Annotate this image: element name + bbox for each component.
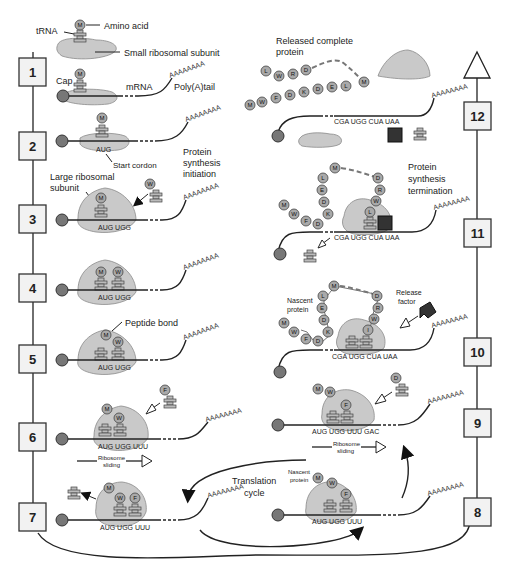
svg-text:protein: protein xyxy=(276,47,304,57)
svg-text:protein: protein xyxy=(290,477,308,483)
step-9: 9 xyxy=(464,409,491,437)
stage-9: M W F AAAAAAAA AUG UGG UUU GAC D Ribosom… xyxy=(272,373,465,454)
svg-text:E: E xyxy=(330,84,334,90)
svg-text:D: D xyxy=(322,199,327,205)
svg-text:F: F xyxy=(304,218,308,224)
svg-text:D: D xyxy=(316,86,321,92)
svg-text:M: M xyxy=(99,269,104,275)
svg-text:AUG UGG UUU GAC: AUG UGG UUU GAC xyxy=(312,428,379,435)
svg-text:Small ribosomal subunit: Small ribosomal subunit xyxy=(124,48,220,58)
step-2: 2 xyxy=(19,132,46,160)
svg-text:AAAAAAAA: AAAAAAAA xyxy=(182,251,220,270)
svg-text:W: W xyxy=(291,329,297,335)
stage-3: Large ribosomal subunit M AAAAAAAA AUG U… xyxy=(50,172,220,233)
step-1: 1 xyxy=(19,58,46,86)
stage-4: M W AAAAAAAA AUG UGG xyxy=(56,251,220,304)
svg-text:M: M xyxy=(78,71,83,77)
svg-text:AUG UGG UUU: AUG UGG UUU xyxy=(100,524,150,531)
step-12: 12 xyxy=(464,102,491,130)
svg-text:sliding: sliding xyxy=(337,448,354,454)
svg-text:AUG: AUG xyxy=(96,146,111,153)
svg-text:AUG UGG UUU: AUG UGG UUU xyxy=(312,518,362,525)
svg-text:10: 10 xyxy=(470,345,484,360)
svg-text:E: E xyxy=(320,305,324,311)
svg-text:M: M xyxy=(333,165,338,171)
svg-text:AAAAAAAA: AAAAAAAA xyxy=(184,103,222,122)
large-subunit-shape xyxy=(378,50,430,79)
svg-text:M: M xyxy=(104,332,109,338)
svg-text:8: 8 xyxy=(474,505,481,520)
small-subunit-shape xyxy=(299,133,342,148)
svg-text:Ribosome: Ribosome xyxy=(333,441,361,447)
svg-text:AAAAAAAA: AAAAAAAA xyxy=(426,480,464,497)
stage-10: Nascent protein Release factor M W F D K… xyxy=(274,281,469,378)
release-factor-icon xyxy=(388,128,402,142)
svg-text:M: M xyxy=(99,195,104,201)
svg-text:Protein: Protein xyxy=(183,147,212,157)
svg-text:F: F xyxy=(163,387,167,393)
stage-6: M W AAAAAAAA AUG UGG UUU F Ribosome slid… xyxy=(56,385,243,468)
svg-text:mRNA: mRNA xyxy=(126,82,153,92)
cap-icon xyxy=(57,90,69,102)
svg-text:W: W xyxy=(371,316,377,322)
svg-text:Poly(A)tail: Poly(A)tail xyxy=(174,82,215,92)
svg-text:W: W xyxy=(115,339,121,345)
svg-text:tRNA: tRNA xyxy=(36,26,58,36)
stage-12: Released complete protein L W R D M W F … xyxy=(245,36,469,147)
svg-text:Release: Release xyxy=(396,289,422,296)
svg-text:M: M xyxy=(100,115,105,121)
up-arrow-icon xyxy=(464,52,490,78)
svg-text:W: W xyxy=(147,181,153,187)
svg-text:M: M xyxy=(78,22,83,28)
svg-text:2: 2 xyxy=(29,139,36,154)
small-subunit-shape xyxy=(57,38,116,59)
svg-text:W: W xyxy=(276,73,282,79)
svg-text:CGA UGG CUA UAA: CGA UGG CUA UAA xyxy=(332,353,398,360)
svg-text:M: M xyxy=(107,485,112,491)
svg-text:F: F xyxy=(133,495,137,501)
svg-text:initiation: initiation xyxy=(183,169,216,179)
svg-text:E: E xyxy=(320,187,324,193)
stage-2: M AAAAAAAA AUG Start cordon Protein synt… xyxy=(56,103,222,179)
translation-diagram: 1 2 3 4 5 6 7 12 11 10 9 8 M Amino acid … xyxy=(0,0,516,578)
svg-text:F: F xyxy=(274,95,278,101)
cycle-arrow-right xyxy=(200,530,360,547)
svg-text:Nascent: Nascent xyxy=(287,297,313,304)
svg-text:1: 1 xyxy=(29,65,36,80)
svg-text:W: W xyxy=(329,480,335,486)
svg-text:AAAAAAAA: AAAAAAAA xyxy=(430,82,468,99)
svg-text:F: F xyxy=(304,336,308,342)
svg-text:synthesis: synthesis xyxy=(408,174,446,184)
svg-text:4: 4 xyxy=(29,281,37,296)
svg-text:K: K xyxy=(326,329,330,335)
svg-text:AUG UGG: AUG UGG xyxy=(98,224,131,231)
svg-text:5: 5 xyxy=(29,352,36,367)
svg-text:R: R xyxy=(376,305,381,311)
legend-components: M Amino acid tRNA Small ribosomal subuni… xyxy=(36,20,220,59)
svg-text:AAAAAAAA: AAAAAAAA xyxy=(182,181,220,200)
svg-text:W: W xyxy=(117,495,123,501)
svg-text:AAAAAAAA: AAAAAAAA xyxy=(168,59,206,78)
svg-text:K: K xyxy=(302,89,306,95)
svg-text:AUG UGG: AUG UGG xyxy=(98,364,131,371)
svg-text:termination: termination xyxy=(408,186,453,196)
svg-text:7: 7 xyxy=(29,510,36,525)
svg-text:Peptide bond: Peptide bond xyxy=(125,318,178,328)
step-3: 3 xyxy=(19,205,46,233)
svg-text:cycle: cycle xyxy=(244,488,265,498)
svg-text:W: W xyxy=(115,269,121,275)
stage-5: M W Peptide bond AAAAAAAA AUG UGG xyxy=(56,318,220,375)
cycle-arrow-up xyxy=(402,450,408,498)
stage-7: M W F AAAAAAAA AUG UGG UUU xyxy=(56,482,245,531)
svg-text:D: D xyxy=(394,375,399,381)
svg-text:subunit: subunit xyxy=(50,183,80,193)
svg-text:D: D xyxy=(376,175,381,181)
step-10: 10 xyxy=(464,338,491,366)
stage-8: Nascent protein M W F AAAAAAAA AUG UGG U… xyxy=(272,469,465,525)
svg-text:6: 6 xyxy=(29,430,36,445)
svg-text:M: M xyxy=(316,386,321,392)
svg-text:Amino acid: Amino acid xyxy=(104,21,149,31)
svg-text:factor: factor xyxy=(398,298,416,305)
svg-text:Start cordon: Start cordon xyxy=(113,161,157,170)
svg-text:12: 12 xyxy=(470,109,484,124)
